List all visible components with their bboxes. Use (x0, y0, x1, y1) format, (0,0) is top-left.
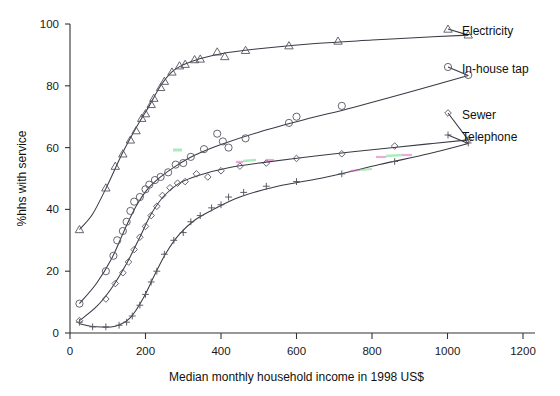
x-tick-label: 400 (211, 345, 230, 357)
data-point-triangle (334, 37, 342, 44)
data-point-diamond (391, 143, 398, 150)
data-point-diamond (204, 174, 211, 181)
y-tick-label: 0 (53, 327, 59, 339)
chart-figure: 020406080100020040060080010001200Median … (0, 0, 560, 396)
data-point-circle (127, 207, 134, 214)
series-fit-line-in-house-tap (79, 76, 468, 304)
y-axis-title: %hhs with service (15, 130, 29, 226)
series-label-telephone: Telephone (462, 130, 518, 144)
data-point-circle (338, 102, 345, 109)
series-label-in-house-tap: In-house tap (462, 62, 529, 76)
x-tick-label: 0 (67, 345, 73, 357)
series-label-sewer: Sewer (462, 108, 496, 122)
x-tick-label: 200 (136, 345, 155, 357)
x-axis-title: Median monthly household income in 1998 … (169, 370, 424, 384)
x-tick-label: 1000 (435, 345, 461, 357)
data-point-triangle (444, 25, 452, 32)
scan-artifact (243, 160, 256, 161)
data-point-circle (293, 113, 300, 120)
y-tick-label: 80 (46, 80, 59, 92)
y-tick-label: 20 (46, 265, 59, 277)
data-point-circle (214, 130, 221, 137)
data-point-circle (165, 169, 172, 176)
scan-artifact (350, 170, 360, 171)
x-tick-label: 600 (287, 345, 306, 357)
y-tick-label: 40 (46, 203, 59, 215)
x-tick-label: 1200 (510, 345, 536, 357)
data-point-circle (76, 300, 83, 307)
scan-artifact (360, 169, 372, 170)
chart-canvas: 020406080100020040060080010001200Median … (0, 0, 560, 396)
y-tick-label: 60 (46, 142, 59, 154)
x-tick-label: 800 (362, 345, 381, 357)
series-fit-line-sewer (79, 140, 468, 321)
data-point-circle (225, 144, 232, 151)
y-tick-label: 100 (40, 18, 59, 30)
series-label-electricity: Electricity (462, 24, 513, 38)
scan-artifact (386, 155, 402, 156)
